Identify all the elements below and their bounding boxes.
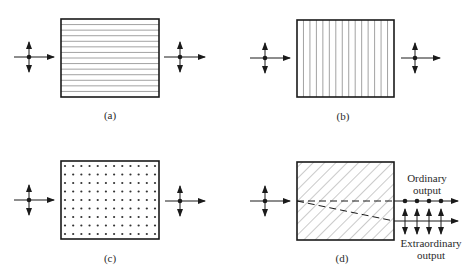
horizontal-line-pattern: [61, 25, 159, 92]
ordinary-output-ray: [394, 199, 458, 204]
extraordinary-output-label-line2: output: [417, 249, 445, 261]
input-polarization-icon: [14, 42, 54, 72]
extraordinary-output-ray: [394, 209, 458, 234]
input-polarization-icon: [14, 185, 54, 215]
ordinary-output-label-line1: Ordinary: [407, 172, 447, 184]
crystal-box-c: [61, 161, 159, 239]
panel-c: (c): [14, 161, 205, 265]
panel-label-d: (d): [336, 252, 349, 265]
extraordinary-output-label-line1: Extraordinary: [400, 237, 462, 249]
crystal-box-b: [297, 20, 394, 97]
panel-label-b: (b): [337, 110, 350, 123]
birefringence-diagram: (a) (b): [0, 0, 475, 276]
input-polarization-icon: [250, 186, 290, 216]
ordinary-output-label-line2: output: [413, 184, 441, 196]
panel-a: (a): [14, 19, 205, 122]
panel-d: Ordinary output Extraordinary output (d): [250, 162, 462, 265]
output-polarization-icon: [401, 43, 440, 73]
dot-pattern: [64, 165, 156, 235]
output-polarization-icon: [164, 42, 205, 72]
input-polarization-icon: [250, 43, 290, 73]
panel-label-c: (c): [104, 252, 117, 265]
vertical-line-pattern: [303, 20, 387, 97]
output-polarization-icon: [165, 186, 205, 216]
panel-b: (b): [250, 20, 440, 123]
panel-label-a: (a): [104, 109, 117, 122]
